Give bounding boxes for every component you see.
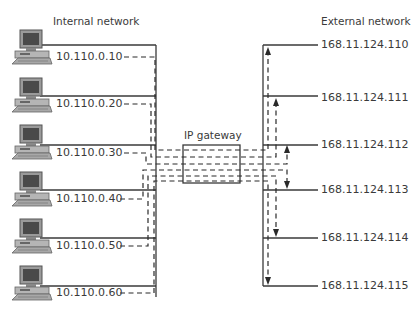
external-network-title: External network bbox=[321, 15, 411, 27]
arrow-down-icon bbox=[284, 181, 290, 189]
desktop-computer-icon bbox=[12, 78, 52, 112]
arrow-down-icon bbox=[273, 229, 279, 237]
external-ip-label: 168.11.124.111 bbox=[321, 92, 408, 104]
ip-gateway-label: IP gateway bbox=[184, 129, 242, 141]
arrow-down-icon bbox=[265, 277, 271, 285]
arrow-up-icon bbox=[265, 47, 271, 55]
desktop-computer-icon bbox=[12, 125, 52, 159]
desktop-computer-icon bbox=[12, 266, 52, 300]
arrow-up-icon bbox=[284, 145, 290, 153]
nat-dashed-paths bbox=[120, 52, 287, 293]
external-ip-label: 168.11.124.114 bbox=[321, 232, 408, 244]
external-ip-label: 168.11.124.115 bbox=[321, 280, 408, 292]
desktop-computer-icon bbox=[12, 30, 52, 64]
internal-network-title: Internal network bbox=[53, 15, 139, 27]
internal-ip-label: 10.110.0.60 bbox=[56, 287, 122, 299]
external-ip-label: 168.11.124.112 bbox=[321, 139, 408, 151]
arrow-up-icon bbox=[273, 98, 279, 106]
internal-bus bbox=[40, 45, 156, 297]
arrowheads bbox=[265, 47, 290, 285]
internal-ip-label: 10.110.0.50 bbox=[56, 240, 122, 252]
external-ip-label: 168.11.124.113 bbox=[321, 184, 408, 196]
internal-ip-label: 10.110.0.10 bbox=[56, 51, 122, 63]
desktop-computer-icon bbox=[12, 219, 52, 253]
external-bus bbox=[263, 45, 318, 286]
computers bbox=[12, 30, 52, 300]
internal-ip-label: 10.110.0.20 bbox=[56, 98, 122, 110]
internal-ip-label: 10.110.0.40 bbox=[56, 193, 122, 205]
desktop-computer-icon bbox=[12, 172, 52, 206]
internal-ip-label: 10.110.0.30 bbox=[56, 147, 122, 159]
external-ip-label: 168.11.124.110 bbox=[321, 39, 408, 51]
